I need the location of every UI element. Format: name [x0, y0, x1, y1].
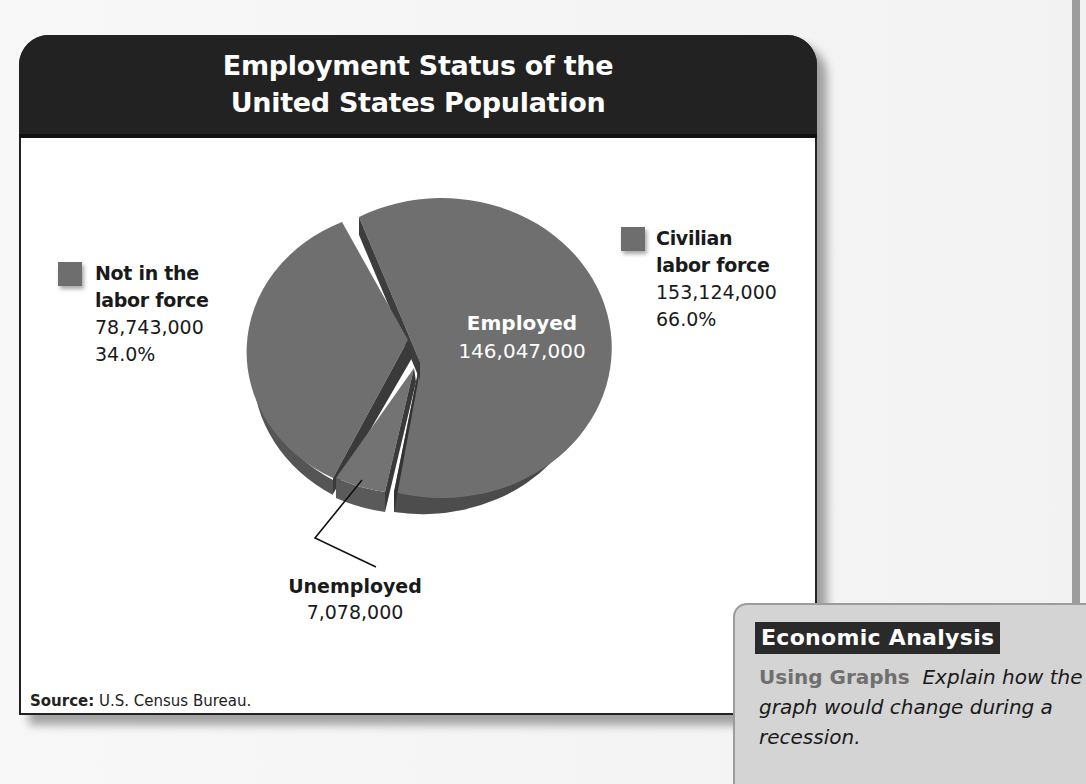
page: Employment Status of the United States P…	[0, 0, 1086, 784]
legend-label-line2: labor force	[95, 287, 209, 314]
legend-swatch-not-in-labor-force	[58, 262, 82, 286]
employed-value: 146,047,000	[432, 337, 612, 365]
legend-percent: 66.0%	[656, 306, 777, 333]
legend-not-in-labor-force: Not in the labor force 78,743,000 34.0%	[95, 260, 209, 368]
analysis-title: Economic Analysis	[755, 622, 1000, 654]
legend-value: 78,743,000	[95, 314, 209, 341]
legend-swatch-civilian-labor-force	[621, 227, 645, 251]
legend-civilian-labor-force: Civilian labor force 153,124,000 66.0%	[656, 225, 777, 333]
slice-label-unemployed: Unemployed 7,078,000	[265, 573, 445, 625]
analysis-keyword: Using Graphs	[759, 665, 910, 689]
employed-label: Employed	[432, 309, 612, 337]
legend-percent: 34.0%	[95, 341, 209, 368]
legend-label-line1: Not in the	[95, 260, 209, 287]
legend-value: 153,124,000	[656, 279, 777, 306]
source-note: Source: U.S. Census Bureau.	[30, 692, 251, 710]
legend-label-line1: Civilian	[656, 225, 777, 252]
source-prefix: Source:	[30, 692, 94, 710]
source-text: U.S. Census Bureau.	[99, 692, 251, 710]
economic-analysis-box: Economic Analysis Using Graphs Explain h…	[733, 603, 1086, 784]
analysis-body: Using Graphs Explain how the graph would…	[759, 662, 1086, 752]
legend-label-line2: labor force	[656, 252, 777, 279]
unemployed-value: 7,078,000	[265, 599, 445, 625]
unemployed-label: Unemployed	[265, 573, 445, 599]
slice-label-employed: Employed 146,047,000	[432, 309, 612, 365]
